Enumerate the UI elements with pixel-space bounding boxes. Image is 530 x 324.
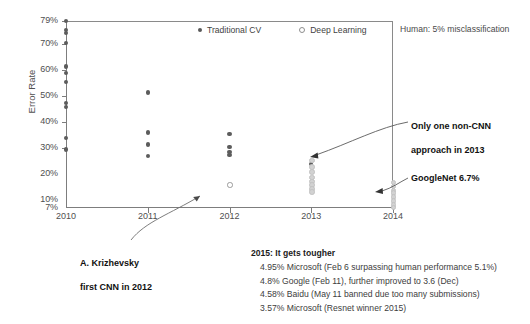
callout-krizhevsky: A. Krizhevsky first CNN in 2012 bbox=[80, 245, 152, 305]
x-tick-mark bbox=[230, 208, 231, 213]
data-point-traditional-cv bbox=[64, 105, 68, 109]
data-point-deep-learning bbox=[227, 182, 232, 187]
y-tick-label: 40% bbox=[24, 116, 58, 126]
plot-top-border bbox=[66, 21, 393, 22]
legend-item-traditional-cv: Traditional CV bbox=[198, 25, 261, 35]
data-point-traditional-cv bbox=[146, 130, 150, 134]
facts-heading: 2015: It gets tougher bbox=[251, 247, 497, 260]
chart-legend: Traditional CV Deep Learning bbox=[198, 25, 367, 35]
legend-label-deep-learning: Deep Learning bbox=[310, 25, 366, 35]
facts-item: 4.8% Google (Feb 11), further improved t… bbox=[251, 275, 497, 288]
filled-dot-icon bbox=[198, 28, 202, 32]
y-tick-label: 20% bbox=[24, 168, 58, 178]
data-point-deep-learning bbox=[391, 205, 397, 211]
callout-non-cnn-line1: Only one non-CNN bbox=[411, 120, 491, 132]
data-point-deep-learning bbox=[309, 158, 315, 164]
data-point-traditional-cv bbox=[64, 64, 68, 68]
x-tick-mark bbox=[148, 208, 149, 213]
callout-krizhevsky-line1: A. Krizhevsky bbox=[80, 257, 152, 269]
y-tick-label: 50% bbox=[24, 90, 58, 100]
data-point-traditional-cv bbox=[227, 153, 231, 157]
y-tick-label: 30% bbox=[24, 142, 58, 152]
plot-area bbox=[66, 21, 393, 208]
facts-list: 4.95% Microsoft (Feb 6 surpassing human … bbox=[251, 261, 497, 315]
y-tick-label: 70% bbox=[24, 38, 58, 48]
facts-item: 4.95% Microsoft (Feb 6 surpassing human … bbox=[251, 261, 497, 274]
facts-item: 3.57% Microsoft (Resnet winner 2015) bbox=[251, 302, 497, 315]
data-point-deep-learning bbox=[309, 189, 315, 195]
callout-non-cnn: Only one non-CNN approach in 2013 bbox=[411, 108, 491, 168]
facts-block: 2015: It gets tougher 4.95% Microsoft (F… bbox=[251, 247, 497, 315]
data-point-traditional-cv bbox=[227, 145, 231, 149]
y-tick-mark bbox=[62, 122, 67, 123]
legend-item-deep-learning: Deep Learning bbox=[299, 25, 366, 35]
callout-krizhevsky-line2: first CNN in 2012 bbox=[80, 281, 152, 293]
y-tick-label: 79% bbox=[24, 15, 58, 25]
y-tick-mark bbox=[62, 96, 67, 97]
human-baseline-note: Human: 5% misclassification bbox=[400, 24, 509, 34]
data-point-traditional-cv bbox=[64, 147, 68, 151]
data-point-traditional-cv bbox=[227, 132, 231, 136]
facts-item: 4.58% Baidu (May 11 banned due too many … bbox=[251, 288, 497, 301]
data-point-traditional-cv bbox=[146, 142, 150, 146]
data-point-traditional-cv bbox=[64, 31, 68, 35]
chart-screenshot: Error Rate 79%70%60%50%40%30%20%10%7% 20… bbox=[0, 0, 530, 324]
x-tick-label: 2010 bbox=[46, 211, 86, 221]
x-tick-mark bbox=[311, 208, 312, 213]
callout-non-cnn-line2: approach in 2013 bbox=[411, 144, 491, 156]
data-point-traditional-cv bbox=[146, 90, 150, 94]
legend-label-traditional-cv: Traditional CV bbox=[207, 25, 261, 35]
hollow-dot-icon bbox=[299, 27, 305, 33]
callout-googlenet: GoogleNet 6.7% bbox=[411, 172, 480, 184]
y-tick-label: 60% bbox=[24, 64, 58, 74]
